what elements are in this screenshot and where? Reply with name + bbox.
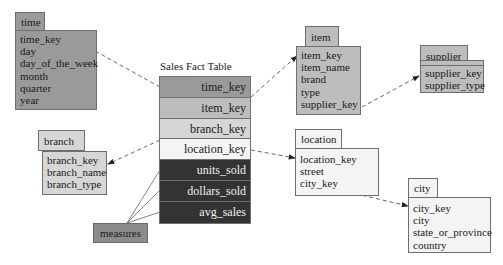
fact-row-branch-key: branch_key xyxy=(160,119,250,140)
attr-brand: brand xyxy=(301,73,356,85)
location-table-attributes: location_key street city_key xyxy=(295,148,379,196)
attr-branch-name: branch_name xyxy=(47,166,102,178)
attr-type: type xyxy=(301,86,356,98)
measures-box: measures xyxy=(93,223,148,243)
link-supplier xyxy=(362,76,419,107)
time-title-text: time xyxy=(21,16,41,28)
fact-row-time-key: time_key xyxy=(160,77,250,98)
link-measure-dollars xyxy=(127,190,160,223)
city-table-title: city xyxy=(408,178,438,198)
attr-supplier-key: supplier_key xyxy=(301,98,356,110)
attr-day-of-the-week: day_of_the_week xyxy=(20,57,92,69)
attr-country: country xyxy=(413,239,486,251)
fact-row-location-key: location_key xyxy=(160,139,250,160)
branch-table-attributes: branch_key branch_name branch_type xyxy=(42,151,107,195)
attr-supplier-type: supplier_type xyxy=(425,79,479,91)
attr-supplier-key-sup: supplier_key xyxy=(425,67,479,79)
attr-city: city xyxy=(413,214,486,226)
attr-city-key: city_key xyxy=(300,177,374,189)
branch-table-title: branch xyxy=(38,130,85,151)
attr-quarter: quarter xyxy=(20,82,92,94)
supplier-divider xyxy=(420,65,484,66)
attr-item-name: item_name xyxy=(301,61,356,73)
item-title-text: item xyxy=(311,31,331,43)
attr-state-or-province: state_or_province xyxy=(413,226,486,238)
fact-row-item-key: item_key xyxy=(160,98,250,119)
attr-street: street xyxy=(300,165,374,177)
attr-location-key: location_key xyxy=(300,153,374,165)
sales-fact-table: time_key item_key branch_key location_ke… xyxy=(159,76,251,224)
fact-row-units-sold: units_sold xyxy=(160,160,250,181)
time-table-attributes: time_key day day_of_the_week month quart… xyxy=(15,30,97,110)
link-measure-units xyxy=(127,170,160,223)
item-table-attributes: item_key item_name brand type supplier_k… xyxy=(296,46,361,115)
time-table-title: time xyxy=(15,12,45,31)
location-table-title: location xyxy=(295,129,342,149)
fact-table-title: Sales Fact Table xyxy=(160,60,232,72)
city-table-attributes: city_key city state_or_province country xyxy=(408,197,491,253)
item-table-title: item xyxy=(305,26,339,47)
attr-month: month xyxy=(20,70,92,82)
attr-item-key: item_key xyxy=(301,49,356,61)
attr-time-key: time_key xyxy=(20,33,92,45)
attr-day: day xyxy=(20,45,92,57)
attr-city-key-city: city_key xyxy=(413,202,486,214)
location-title-text: location xyxy=(301,133,336,145)
attr-branch-type: branch_type xyxy=(47,178,102,190)
fact-row-dollars-sold: dollars_sold xyxy=(160,181,250,202)
attr-branch-key: branch_key xyxy=(47,154,102,166)
attr-year: year xyxy=(20,94,92,106)
link-branch xyxy=(108,140,160,164)
city-title-text: city xyxy=(414,182,431,194)
link-location xyxy=(251,150,295,158)
link-item xyxy=(251,56,297,97)
branch-title-text: branch xyxy=(44,135,74,147)
fact-row-avg-sales: avg_sales xyxy=(160,202,250,223)
